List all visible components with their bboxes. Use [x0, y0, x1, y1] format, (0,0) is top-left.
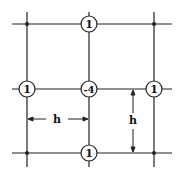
corner-node-top-left: [25, 22, 29, 26]
node-left-label: 1: [23, 83, 31, 96]
node-bottom-label: 1: [85, 147, 93, 160]
node-top-label: 1: [85, 18, 93, 31]
arrow-head-left: [28, 117, 33, 121]
stencil-diagram: 1 1 -4 1 1 h h: [0, 0, 179, 177]
stencil-grid: 1 1 -4 1 1 h h: [0, 0, 179, 177]
node-center-label: -4: [83, 84, 94, 95]
vertical-spacing-label: h: [129, 114, 137, 127]
corner-node-bottom-right: [152, 151, 156, 155]
arrow-head-right: [83, 117, 88, 121]
horizontal-spacing-label: h: [53, 113, 61, 126]
corner-node-top-right: [152, 22, 156, 26]
node-right-label: 1: [150, 83, 158, 96]
arrow-head-up: [131, 90, 135, 95]
corner-node-bottom-left: [25, 151, 29, 155]
arrow-head-down: [131, 147, 135, 152]
